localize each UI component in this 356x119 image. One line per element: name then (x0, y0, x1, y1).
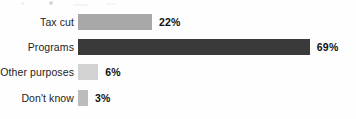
bar-category-label: Tax cut (0, 12, 74, 32)
scan-artifact-icon (21, 2, 24, 5)
bar-row: Don't know3% (0, 88, 356, 108)
bar (78, 64, 98, 80)
scan-artifact-icon (73, 4, 89, 6)
scan-artifact-icon (106, 3, 116, 5)
bar-row: Other purposes6% (0, 62, 356, 82)
bar-chart: Tax cut22%Programs69%Other purposes6%Don… (0, 0, 356, 119)
bar-fill (78, 39, 310, 55)
bar-value-label: 3% (95, 88, 111, 108)
bar (78, 14, 152, 30)
bar-fill (78, 64, 98, 80)
bar-fill (78, 14, 152, 30)
bar-category-label: Don't know (0, 88, 74, 108)
bar-row: Programs69% (0, 37, 356, 57)
bar-category-label: Other purposes (0, 62, 74, 82)
bar (78, 39, 310, 55)
bar (78, 90, 88, 106)
bar-value-label: 22% (159, 12, 181, 32)
bar-value-label: 6% (105, 62, 121, 82)
bar-row: Tax cut22% (0, 12, 356, 32)
scan-artifact-icon (49, 1, 53, 5)
bar-value-label: 69% (317, 37, 339, 57)
bar-fill (78, 90, 88, 106)
bar-category-label: Programs (0, 37, 74, 57)
